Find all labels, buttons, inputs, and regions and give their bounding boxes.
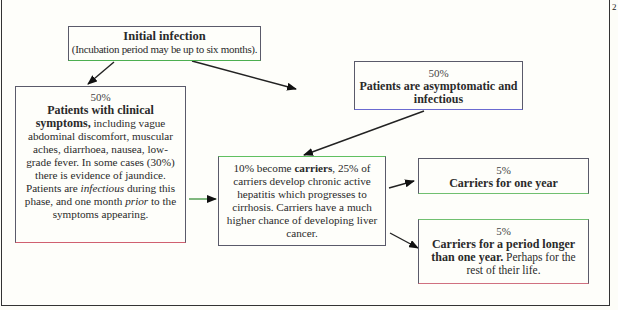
node-carriers-longer: 5% Carriers for a period longer than one… xyxy=(418,219,589,284)
node-carriers: 10% become carriers, 25% of carriers dev… xyxy=(218,156,386,246)
carriers-text-1: 10% become xyxy=(234,162,295,174)
node-initial-infection: Initial infection (Incubation period may… xyxy=(68,26,261,61)
page-number: 2 xyxy=(612,2,617,12)
clinical-italic-infectious: infectious xyxy=(81,182,125,194)
initial-title: Initial infection xyxy=(69,30,260,43)
node-clinical-symptoms: 50% Patients with clinical symptoms, inc… xyxy=(15,86,186,243)
one-year-title: Carriers for one year xyxy=(419,177,588,190)
clinical-italic-prior: prior xyxy=(125,195,148,207)
node-asymptomatic: 50% Patients are asymptomatic and infect… xyxy=(354,61,523,110)
carriers-bold: carriers xyxy=(294,162,332,174)
node-carriers-one-year: 5% Carriers for one year xyxy=(418,158,589,194)
initial-subtitle: (Incubation period may be up to six mont… xyxy=(72,43,257,55)
asymptomatic-title: Patients are asymptomatic and infectious xyxy=(355,80,522,106)
